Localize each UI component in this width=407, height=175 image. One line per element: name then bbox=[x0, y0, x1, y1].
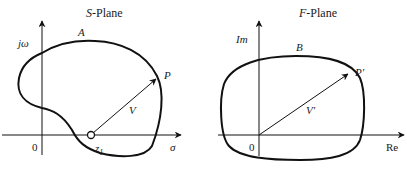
mapping-diagram: S-Plane jω A P V 0 z1 σ F-Plane Im B P' … bbox=[0, 0, 407, 175]
s-plane-origin-label: 0 bbox=[32, 141, 38, 153]
point-p-label: P bbox=[163, 69, 171, 81]
zero-marker-icon bbox=[88, 132, 95, 139]
f-plane-origin-label: 0 bbox=[249, 141, 255, 153]
point-p-prime-label: P' bbox=[354, 66, 365, 78]
f-plane-horizontal-axis-label: Re bbox=[386, 141, 398, 153]
contour-b-label: B bbox=[296, 41, 303, 53]
vector-v-prime-label: V' bbox=[306, 104, 316, 116]
f-plane-vertical-axis-label: Im bbox=[235, 33, 248, 45]
s-plane-title: S-Plane bbox=[86, 6, 123, 20]
f-plane-vector-v-prime bbox=[259, 74, 348, 135]
zero-z1-label: z1 bbox=[94, 142, 103, 157]
vector-v-label: V bbox=[129, 104, 137, 116]
s-plane-horizontal-axis-label: σ bbox=[170, 141, 176, 153]
s-plane-vertical-axis-label: jω bbox=[16, 37, 29, 49]
f-plane-panel: F-Plane Im B P' V' 0 Re bbox=[218, 6, 404, 160]
s-plane-vector-v bbox=[93, 79, 156, 133]
s-plane-panel: S-Plane jω A P V 0 z1 σ bbox=[2, 6, 181, 157]
f-plane-title: F-Plane bbox=[298, 6, 337, 20]
f-plane-contour-b bbox=[221, 56, 364, 160]
contour-a-label: A bbox=[77, 26, 85, 38]
